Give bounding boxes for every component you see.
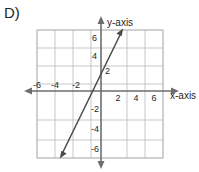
y-tick-label: 6 [92, 33, 97, 43]
x-tick-label: 2 [115, 93, 120, 103]
arrow-left-icon [24, 88, 32, 95]
y-tick-label: 4 [92, 51, 97, 61]
grid-frame [37, 30, 163, 158]
x-tick-label: 4 [133, 93, 138, 103]
x-tick-label: -4 [51, 80, 59, 90]
y-tick-label: -6 [91, 144, 99, 154]
x-axis-title: x-axis [170, 90, 196, 101]
arrow-up-icon [98, 16, 105, 24]
grid-group [37, 30, 163, 158]
graph-svg: -6 -4 -2 2 4 6 6 4 2 -2 -4 -6 y-axis x-a… [0, 0, 199, 172]
x-tick-label: -6 [33, 80, 41, 90]
x-tick-label: 6 [151, 93, 156, 103]
y-tick-label: -4 [91, 124, 99, 134]
coordinate-plane-figure: -6 -4 -2 2 4 6 6 4 2 -2 -4 -6 y-axis x-a… [0, 0, 199, 172]
y-tick-label: -2 [91, 104, 99, 114]
y-axis-title: y-axis [107, 17, 133, 28]
y-tick-label: 2 [105, 66, 110, 76]
line-arrow-down-icon [60, 151, 67, 159]
arrow-down-icon [98, 161, 105, 169]
x-tick-label: -2 [72, 80, 80, 90]
